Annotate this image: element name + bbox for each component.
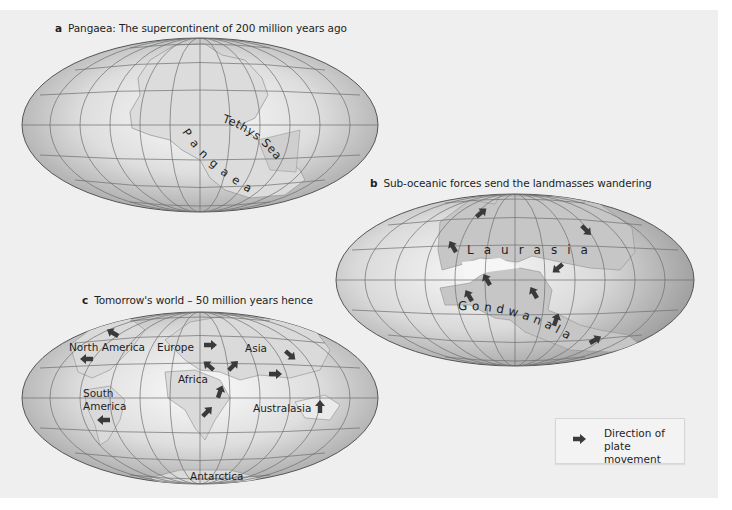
caption-a-letter: a (55, 22, 62, 34)
europe-label: Europe (157, 341, 194, 353)
laurasia-label: Laurasia (467, 243, 598, 257)
africa-label: Africa (178, 373, 208, 385)
legend-box: Direction of plate movement (555, 418, 685, 464)
map-c-future-world: North America South America Europe Afric… (22, 312, 378, 488)
australasia-label: Australasia (253, 402, 311, 414)
caption-b: bSub-oceanic forces send the landmasses … (370, 177, 652, 189)
map-a-pangaea: Tethys Sea Pangaea (22, 38, 378, 212)
caption-b-text: Sub-oceanic forces send the landmasses w… (383, 177, 651, 189)
antarctica-label: Antarctica (190, 470, 244, 482)
caption-a: aPangaea: The supercontinent of 200 mill… (55, 22, 347, 34)
asia-label: Asia (245, 342, 267, 354)
arrow-right-icon (568, 432, 590, 446)
north-america-label: North America (69, 341, 145, 353)
caption-c-text: Tomorrow's world – 50 million years henc… (94, 294, 313, 306)
south-america-label-line2: America (83, 400, 126, 412)
caption-c: cTomorrow's world – 50 million years hen… (82, 294, 313, 306)
caption-a-text: Pangaea: The supercontinent of 200 milli… (68, 22, 347, 34)
caption-b-letter: b (370, 177, 377, 189)
south-america-label-line1: South (83, 387, 114, 399)
legend-label: Direction of plate movement (604, 427, 684, 466)
caption-c-letter: c (82, 294, 88, 306)
